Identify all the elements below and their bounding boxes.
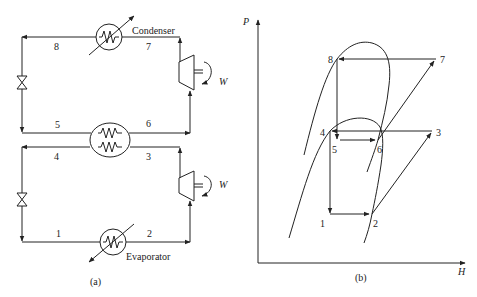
condenser-icon xyxy=(89,16,134,55)
state-label-7: 7 xyxy=(146,41,151,52)
panel-b-caption: (b) xyxy=(355,272,367,284)
ph-state-label-2: 2 xyxy=(373,218,378,229)
work-label-lower: W xyxy=(219,179,229,190)
lower-compressor-icon xyxy=(179,171,211,201)
ph-diagram-panel: P H 8 7 4 3 5 6 1 2 (b) xyxy=(242,16,466,284)
panel-a-caption: (a) xyxy=(90,276,101,288)
cascade-heat-exchanger-icon xyxy=(90,123,130,157)
ph-state-label-6: 6 xyxy=(377,144,382,155)
state-label-4: 4 xyxy=(54,151,59,162)
state-label-1: 1 xyxy=(56,228,61,239)
h-axis-label: H xyxy=(457,266,466,277)
state-label-3: 3 xyxy=(146,151,151,162)
ph-state-label-3: 3 xyxy=(436,127,441,138)
state-label-8: 8 xyxy=(54,41,59,52)
upper-expansion-valve-icon xyxy=(17,76,27,89)
work-label-upper: W xyxy=(219,76,229,87)
lower-saturation-dome xyxy=(289,118,383,243)
ph-state-label-5: 5 xyxy=(332,144,337,155)
p-axis-label: P xyxy=(242,16,249,27)
state-label-5: 5 xyxy=(55,119,60,130)
ph-state-label-1: 1 xyxy=(320,218,325,229)
condenser-label: Condenser xyxy=(132,25,175,36)
lower-expansion-valve-icon xyxy=(17,193,27,206)
upper-cycle xyxy=(17,16,211,133)
upper-compressor-icon xyxy=(179,55,211,90)
cascade-refrigeration-figure: Condenser Evaporator W W 8 7 5 6 4 3 1 2… xyxy=(0,0,477,297)
evaporator-label: Evaporator xyxy=(126,251,171,262)
lower-cycle xyxy=(17,147,211,262)
ph-state-label-8: 8 xyxy=(328,54,333,65)
ph-state-label-7: 7 xyxy=(440,54,445,65)
ph-state-label-4: 4 xyxy=(320,127,325,138)
state-label-6: 6 xyxy=(146,118,151,129)
state-label-2: 2 xyxy=(147,228,152,239)
schematic-panel: Condenser Evaporator W W 8 7 5 6 4 3 1 2… xyxy=(17,16,229,288)
